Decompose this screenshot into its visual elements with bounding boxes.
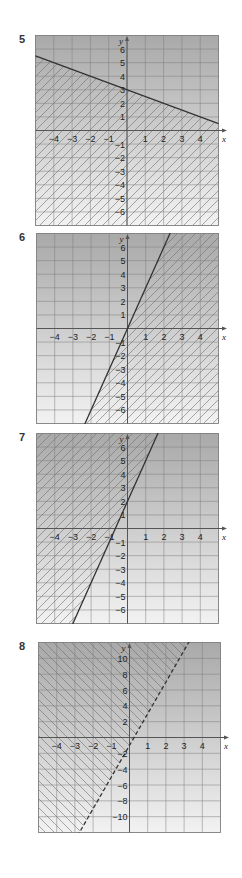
y-tick-label: 2: [120, 99, 125, 109]
y-tick-label: 4: [120, 470, 125, 480]
x-arrow-icon: [224, 736, 229, 740]
y-tick-label: −1: [115, 538, 125, 548]
y-tick-label: −2: [117, 749, 127, 759]
x-tick-label: 4: [198, 532, 203, 542]
y-tick-label: −5: [115, 592, 125, 602]
y-tick-label: 3: [120, 483, 125, 493]
x-tick-label: −4: [50, 532, 60, 542]
y-tick-label: 4: [120, 270, 125, 280]
x-tick-label: −2: [86, 532, 96, 542]
exercise-number: 5: [19, 33, 25, 45]
y-axis-label: y: [119, 234, 124, 244]
x-tick-label: 2: [161, 332, 166, 342]
x-arrow-icon: [222, 129, 227, 133]
x-tick-label: −2: [86, 332, 96, 342]
y-tick-label: 6: [120, 443, 125, 453]
exercise-number: 8: [19, 640, 25, 652]
y-tick-label: 2: [122, 717, 127, 727]
x-tick-label: 2: [163, 741, 168, 751]
x-tick-label: 4: [200, 741, 205, 751]
x-axis-label: x: [221, 332, 226, 342]
x-tick-label: −4: [49, 134, 59, 144]
x-tick-label: −3: [68, 532, 78, 542]
y-tick-label: 4: [122, 701, 127, 711]
y-tick-label: −6: [115, 605, 125, 615]
x-tick-label: 3: [180, 532, 185, 542]
exercise-number: 7: [19, 431, 25, 443]
x-axis-label: x: [223, 741, 228, 751]
x-tick-label: 1: [143, 134, 148, 144]
y-tick-label: −10: [112, 812, 127, 822]
y-tick-label: 4: [120, 72, 125, 82]
exercise-number: 6: [19, 231, 25, 243]
y-tick-label: −2: [115, 351, 125, 361]
x-arrow-icon: [222, 327, 227, 331]
x-tick-label: −3: [70, 741, 80, 751]
y-tick-label: −6: [115, 405, 125, 415]
y-tick-label: 5: [120, 256, 125, 266]
x-tick-label: 1: [143, 532, 148, 542]
y-tick-label: 10: [117, 654, 127, 664]
graph-6: −4−3−2−11234654321−1−2−3−4−5−6xy: [36, 233, 230, 425]
x-axis-label: x: [221, 532, 226, 542]
y-tick-label: −5: [115, 392, 125, 402]
graph-7: −4−3−2−11234654321−1−2−3−4−5−6xy: [36, 433, 230, 625]
x-tick-label: 1: [145, 741, 150, 751]
graph-8: −4−3−2−11234108642−2−4−6−8−10xy: [38, 642, 232, 834]
x-tick-label: 1: [143, 332, 148, 342]
x-tick-label: −1: [104, 332, 114, 342]
y-tick-label: −4: [115, 378, 125, 388]
graph-5: −4−3−2−11234654321−1−2−3−4−5−6xy: [35, 35, 230, 227]
x-tick-label: 2: [161, 134, 166, 144]
x-tick-label: 4: [198, 134, 203, 144]
y-tick-label: −3: [115, 167, 125, 177]
y-tick-label: −6: [117, 781, 127, 791]
y-tick-label: −8: [117, 796, 127, 806]
y-tick-label: 3: [120, 283, 125, 293]
y-tick-label: 1: [120, 112, 125, 122]
x-tick-label: 2: [161, 532, 166, 542]
y-tick-label: 6: [120, 45, 125, 55]
x-tick-label: −1: [104, 532, 114, 542]
x-tick-label: 3: [182, 741, 187, 751]
y-axis-label: y: [118, 36, 123, 46]
y-tick-label: −4: [115, 180, 125, 190]
y-tick-label: −4: [115, 578, 125, 588]
y-tick-label: 1: [120, 310, 125, 320]
x-tick-label: −3: [67, 134, 77, 144]
y-tick-label: −1: [115, 140, 125, 150]
y-tick-label: 5: [120, 456, 125, 466]
x-tick-label: −4: [52, 741, 62, 751]
y-tick-label: 8: [122, 670, 127, 680]
y-tick-label: −4: [117, 765, 127, 775]
x-tick-label: −2: [85, 134, 95, 144]
x-tick-label: 3: [179, 134, 184, 144]
y-tick-label: 6: [120, 243, 125, 253]
y-tick-label: 2: [120, 297, 125, 307]
y-tick-label: 2: [120, 497, 125, 507]
y-tick-label: −2: [115, 153, 125, 163]
x-tick-label: 3: [180, 332, 185, 342]
x-tick-label: −1: [104, 134, 114, 144]
y-tick-label: 6: [122, 686, 127, 696]
y-tick-label: −2: [115, 551, 125, 561]
x-axis-label: x: [221, 134, 226, 144]
x-arrow-icon: [222, 527, 227, 531]
x-tick-label: −2: [88, 741, 98, 751]
y-tick-label: −3: [115, 365, 125, 375]
x-tick-label: −4: [50, 332, 60, 342]
y-axis-label: y: [119, 434, 124, 444]
y-tick-label: 1: [120, 510, 125, 520]
y-tick-label: −5: [115, 194, 125, 204]
y-tick-label: 3: [120, 85, 125, 95]
y-tick-label: −1: [115, 338, 125, 348]
x-tick-label: −3: [68, 332, 78, 342]
y-axis-label: y: [121, 643, 126, 653]
y-tick-label: −6: [115, 207, 125, 217]
x-tick-label: −1: [106, 741, 116, 751]
x-tick-label: 4: [198, 332, 203, 342]
y-tick-label: 5: [120, 58, 125, 68]
y-tick-label: −3: [115, 565, 125, 575]
